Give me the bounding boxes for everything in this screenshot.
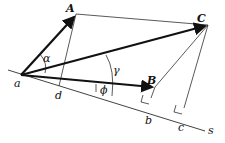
label-phi: ϕ <box>100 84 108 97</box>
axis-s-line <box>8 70 205 131</box>
line-C-c <box>184 25 208 108</box>
label-B: B <box>146 74 156 87</box>
label-gamma: γ <box>113 64 120 77</box>
vector-aB <box>21 75 152 87</box>
vector-diagram: A C B a d b c s α γ ϕ <box>0 0 225 143</box>
label-A: A <box>65 2 75 15</box>
label-alpha: α <box>43 52 51 65</box>
label-s: s <box>208 124 214 137</box>
label-C: C <box>197 12 206 25</box>
label-c: c <box>178 121 184 134</box>
right-angle-c <box>174 105 182 114</box>
right-angle-b <box>141 95 149 104</box>
vector-aA <box>21 17 74 75</box>
label-d: d <box>55 89 62 102</box>
label-b: b <box>145 114 152 127</box>
line-B-b <box>151 87 155 98</box>
line-A-C <box>76 14 208 25</box>
line-B-C <box>155 25 208 87</box>
label-a: a <box>14 77 21 90</box>
